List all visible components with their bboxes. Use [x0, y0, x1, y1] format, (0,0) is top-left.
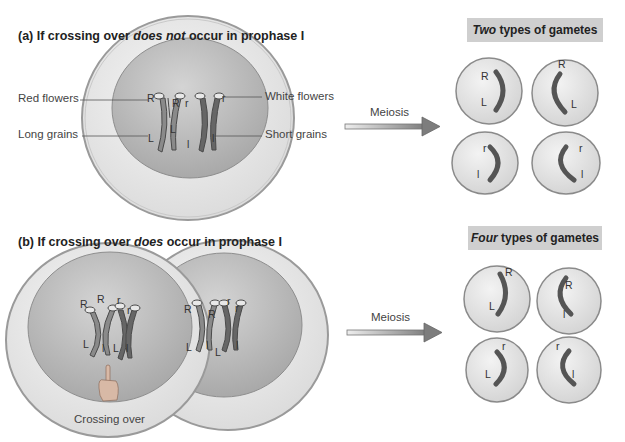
gamete-a2-top: R: [558, 58, 566, 70]
cell2-allele-R-2: R: [208, 308, 216, 320]
meiosis-arrow-b: [347, 323, 442, 342]
gamete-a2-bottom: L: [571, 98, 577, 110]
panel-a-title: (a) If crossing over does not occur in p…: [18, 29, 304, 43]
gamete-a3-bottom: l: [477, 168, 479, 180]
cell1-allele-L-2: L: [113, 342, 119, 354]
gamete-b4-top: r: [556, 340, 560, 352]
allele-l-2: l: [212, 132, 214, 144]
gametes-b: [464, 266, 601, 403]
gamete-b2-top: R: [565, 279, 573, 291]
crossing-over-label: Crossing over: [74, 413, 145, 425]
result-box-a: Two types of gametes: [467, 18, 603, 42]
panel-b-title: (b) If crossing over does occur in proph…: [18, 235, 282, 249]
cell1-allele-R-2: R: [97, 293, 105, 305]
cell2-allele-r-2: r: [235, 302, 239, 314]
diagram-graphics: R R r r L L l l R L R L r l r l: [0, 0, 625, 442]
cell1-allele-l-2: l: [126, 342, 128, 354]
meiosis-arrow-a: [345, 117, 440, 136]
label-red-flowers: Red flowers: [18, 92, 79, 104]
label-long-grains: Long grains: [18, 128, 78, 140]
cell2-allele-r-1: r: [227, 295, 231, 307]
allele-R-2: R: [172, 97, 180, 109]
cell2-allele-R-1: R: [184, 303, 192, 315]
gamete-b1-bottom: L: [489, 300, 495, 312]
cell2-allele-L-2: L: [215, 346, 221, 358]
gamete-b3-bottom: L: [485, 368, 491, 380]
allele-r-2: r: [222, 92, 226, 104]
cell1-allele-R-1: R: [80, 298, 88, 310]
panel-a-cell: [82, 16, 294, 220]
cell1-allele-r-2: r: [127, 304, 131, 316]
allele-l-1: l: [187, 138, 189, 150]
gamete-b4-bottom: l: [572, 368, 574, 380]
cell2-allele-l-2: l: [236, 339, 238, 351]
gamete-a1-top: R: [481, 70, 489, 82]
label-short-grains: Short grains: [265, 128, 327, 140]
allele-r-1: r: [185, 97, 189, 109]
allele-L-2: L: [170, 123, 176, 135]
cell1-allele-r-1: r: [117, 294, 121, 306]
gamete-b2-bottom: l: [563, 308, 565, 320]
gamete-a4-top: r: [579, 142, 583, 154]
cell1-allele-L-1: L: [83, 338, 89, 350]
gamete-a1-bottom: L: [481, 96, 487, 108]
result-box-b: Four types of gametes: [468, 226, 602, 250]
meiosis-label-a: Meiosis: [370, 106, 409, 118]
gamete-a3-top: r: [483, 142, 487, 154]
gamete-b3-top: r: [502, 340, 506, 352]
label-white-flowers: White flowers: [265, 90, 334, 102]
gametes-a: [452, 58, 600, 194]
gamete-a4-bottom: l: [581, 168, 583, 180]
cell2-allele-l-1: l: [206, 339, 208, 351]
cell2-allele-L-1: L: [186, 341, 192, 353]
gamete-b1-top: R: [505, 266, 513, 278]
cell1-allele-l-1: l: [102, 342, 104, 354]
allele-L-1: L: [148, 132, 154, 144]
allele-R-1: R: [147, 92, 155, 104]
meiosis-label-b: Meiosis: [371, 311, 410, 323]
